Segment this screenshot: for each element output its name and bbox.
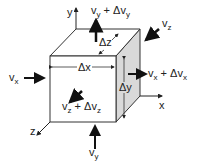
vy-out-label: vy + Δvy: [91, 5, 130, 16]
z-axis-arrow: [37, 122, 50, 135]
vz-in-label: vz: [162, 18, 172, 29]
dz-label: Δz: [99, 37, 112, 48]
y-axis-label: y: [67, 7, 73, 18]
dy-label: Δy: [119, 82, 132, 93]
z-axis-label: z: [30, 126, 36, 137]
vx-in-label: vx: [9, 72, 19, 83]
vz-out-label: vz + Δvz: [62, 101, 101, 112]
x-axis-label: x: [159, 100, 165, 111]
vz-in-arrow: [146, 29, 159, 40]
vx-out-label: vx + Δvx: [148, 68, 187, 79]
dx-label: Δx: [77, 62, 92, 73]
vy-in-label: vy: [89, 147, 99, 158]
